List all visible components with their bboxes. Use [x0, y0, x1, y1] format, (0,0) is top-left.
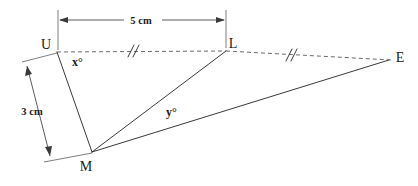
- arrow-head-bottom-3cm: [45, 146, 52, 156]
- segment-L-E: [226, 51, 391, 60]
- vertex-label-M: M: [80, 159, 93, 174]
- tick-on-UL-stroke-2: [133, 45, 139, 57]
- arrow-head-left-5cm: [59, 17, 68, 23]
- tick-on-UL-stroke-1: [128, 45, 134, 57]
- segment-M-E: [92, 60, 389, 152]
- geometry-figure: 5 cm 3 cm: [0, 0, 418, 186]
- segment-U-L: [57, 51, 226, 52]
- tick-on-UL: [128, 45, 139, 57]
- angle-x-label: x°: [72, 55, 83, 69]
- extension-line-u-to-dim: [22, 53, 57, 62]
- angle-y-label: y°: [166, 105, 177, 119]
- arrow-head-top-3cm: [25, 66, 32, 76]
- dimension-5cm-group: 5 cm: [58, 10, 226, 50]
- geometry-diagram-canvas: 5 cm 3 cm: [0, 0, 418, 186]
- segment-M-L: [92, 51, 226, 152]
- dimension-5cm-label: 5 cm: [130, 15, 152, 26]
- vertex-label-U: U: [41, 37, 51, 52]
- dimension-3cm-group: 3 cm: [21, 53, 92, 162]
- dimension-3cm-label: 3 cm: [21, 106, 43, 117]
- arrow-head-right-5cm: [216, 17, 225, 23]
- vertex-label-L: L: [229, 36, 238, 51]
- vertex-label-E: E: [396, 50, 405, 65]
